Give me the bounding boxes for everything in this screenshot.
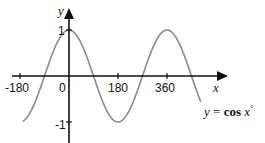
y-axis-label: y — [56, 3, 64, 18]
function-caption: y = cos x° — [202, 103, 254, 119]
x-axis-label: x — [212, 80, 219, 95]
y-axis-arrow-icon — [64, 8, 74, 19]
x-tick-label-0: 0 — [59, 81, 66, 95]
y-tick-label-1: 1 — [58, 24, 65, 38]
cosine-chart: -180 0 180 360 1 -1 y x y = cos x° — [0, 0, 265, 143]
y-tick-label-neg1: -1 — [55, 118, 66, 132]
x-tick-label-neg180: -180 — [5, 81, 29, 95]
x-tick-label-180: 180 — [108, 81, 128, 95]
x-tick-label-360: 360 — [155, 81, 175, 95]
